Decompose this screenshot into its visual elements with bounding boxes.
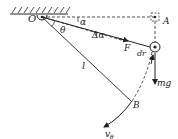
label-velocity: vθ: [105, 129, 114, 139]
label-alpha: α: [80, 17, 86, 27]
dr-arrow: [151, 55, 153, 64]
ceiling: [10, 7, 70, 14]
label-theta: θ: [60, 25, 66, 35]
label-dr: dr: [137, 49, 147, 58]
velocity-arrow: [104, 101, 132, 127]
label-o: O: [28, 13, 36, 24]
theta-arc: [51, 21, 55, 27]
trajectory-arc: [132, 52, 152, 101]
mass: [150, 42, 160, 52]
label-d-alpha: Δα: [91, 30, 105, 40]
label-mg: mg: [157, 78, 172, 88]
label-b: B: [132, 100, 140, 110]
pendulum-diagram: O α Δα θ A F dr l mg B vθ: [0, 0, 178, 139]
label-l: l: [82, 60, 85, 71]
label-a: A: [162, 16, 170, 26]
label-force: F: [123, 43, 131, 53]
